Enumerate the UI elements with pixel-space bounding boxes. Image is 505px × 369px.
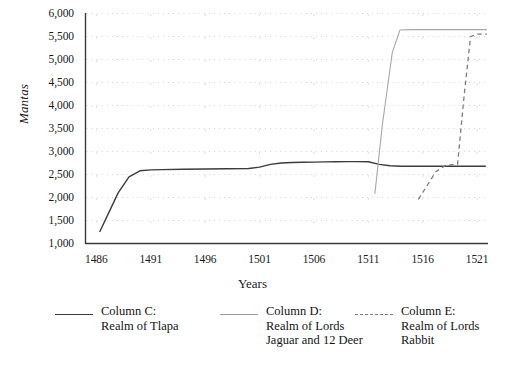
- series-line-0: [100, 162, 486, 232]
- axis-tickmarks: [96, 15, 477, 244]
- legend-label: Column C: Realm of Tlapa: [101, 304, 179, 333]
- y-tick-label: 5,000: [22, 53, 74, 65]
- x-tick-label: 1501: [230, 253, 290, 265]
- series-line-1: [375, 30, 487, 194]
- y-tick-label: 1,000: [22, 237, 74, 249]
- x-tick-label: 1491: [121, 253, 181, 265]
- legend-item-column-c[interactable]: Column C: Realm of Tlapa: [55, 304, 179, 333]
- y-tick-label: 4,500: [22, 76, 74, 88]
- x-tick-label: 1511: [338, 253, 398, 265]
- x-tick-label: 1506: [284, 253, 344, 265]
- gridlines: [87, 14, 489, 244]
- x-tick-label: 1486: [66, 253, 126, 265]
- chart-container: Mantas Years 1,0001,5002,0002,5003,0003,…: [0, 0, 505, 369]
- y-tick-label: 3,500: [22, 122, 74, 134]
- chart-legend: Column C: Realm of Tlapa Column D: Realm…: [0, 304, 505, 366]
- legend-swatch-line-icon: [55, 309, 93, 321]
- x-tick-label: 1496: [175, 253, 235, 265]
- legend-label: Column D: Realm of Lords Jaguar and 12 D…: [266, 304, 363, 348]
- y-tick-label: 2,000: [22, 191, 74, 203]
- legend-item-column-d[interactable]: Column D: Realm of Lords Jaguar and 12 D…: [220, 304, 363, 348]
- y-tick-label: 4,000: [22, 99, 74, 111]
- legend-swatch-dashed-line-icon: [355, 309, 393, 321]
- y-tick-label: 1,500: [22, 214, 74, 226]
- y-tick-label: 2,500: [22, 168, 74, 180]
- legend-item-column-e[interactable]: Column E: Realm of Lords Rabbit: [355, 304, 479, 348]
- x-tick-label: 1521: [447, 253, 505, 265]
- y-tick-label: 3,000: [22, 145, 74, 157]
- series-lines: [100, 30, 487, 232]
- x-tick-label: 1516: [393, 253, 453, 265]
- legend-label: Column E: Realm of Lords Rabbit: [401, 304, 479, 348]
- y-tick-label: 6,000: [22, 7, 74, 19]
- legend-swatch-line-icon: [220, 309, 258, 321]
- y-tick-label: 5,500: [22, 30, 74, 42]
